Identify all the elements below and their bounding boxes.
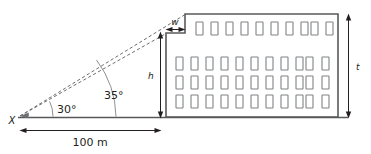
dimension-arrowhead-baseline-right xyxy=(155,128,162,133)
dimension-arrowhead-h-top xyxy=(158,32,163,39)
window xyxy=(266,76,273,89)
window xyxy=(281,95,288,108)
window xyxy=(206,57,213,70)
dimension-label-h: h xyxy=(148,71,154,81)
window xyxy=(271,22,278,35)
window xyxy=(236,95,243,108)
window xyxy=(241,22,248,35)
dimension-arrowhead-baseline-left xyxy=(20,128,27,133)
window xyxy=(226,22,233,35)
window xyxy=(322,95,329,108)
window xyxy=(281,76,288,89)
window xyxy=(306,95,313,108)
window xyxy=(221,95,228,108)
window xyxy=(176,76,183,89)
window xyxy=(206,76,213,89)
window xyxy=(221,57,228,70)
observer-point-label: X xyxy=(8,115,17,126)
window xyxy=(322,57,329,70)
angle-label-35: 35° xyxy=(104,89,124,102)
window xyxy=(251,57,258,70)
window xyxy=(191,57,198,70)
dimension-arrowhead-t-top xyxy=(346,14,351,21)
sight-line-30-degrees xyxy=(20,33,167,116)
window xyxy=(191,95,198,108)
window xyxy=(236,76,243,89)
dimension-arrowhead-w-left xyxy=(166,27,173,32)
window xyxy=(296,57,303,70)
angle-label-30: 30° xyxy=(57,103,77,116)
window xyxy=(322,76,329,89)
angle-arc-30 xyxy=(50,101,53,116)
window xyxy=(306,57,313,70)
window xyxy=(176,95,183,108)
window xyxy=(176,57,183,70)
dimension-label-baseline: 100 m xyxy=(72,136,107,149)
window xyxy=(251,76,258,89)
window xyxy=(281,57,288,70)
sight-line-35-degrees xyxy=(20,14,186,116)
window xyxy=(196,22,203,35)
window xyxy=(211,22,218,35)
dimension-label-w: w xyxy=(171,17,179,27)
window xyxy=(311,22,318,35)
diagram-canvas: X 30° 35° h w t 100 m xyxy=(0,0,371,154)
window xyxy=(191,76,198,89)
window xyxy=(236,57,243,70)
window xyxy=(266,57,273,70)
window xyxy=(301,22,308,35)
window xyxy=(326,22,333,35)
window xyxy=(286,22,293,35)
window xyxy=(296,76,303,89)
elevation-angle-diagram: X 30° 35° h w t 100 m xyxy=(0,0,371,154)
window xyxy=(256,22,263,35)
window xyxy=(221,76,228,89)
window xyxy=(206,95,213,108)
window xyxy=(251,95,258,108)
window xyxy=(296,95,303,108)
window xyxy=(306,76,313,89)
window xyxy=(266,95,273,108)
dimension-label-t: t xyxy=(356,62,360,72)
